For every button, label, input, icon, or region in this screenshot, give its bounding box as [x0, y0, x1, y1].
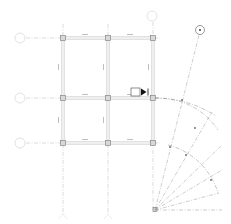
- radial-node-3: [210, 179, 212, 181]
- radial-node-5: [194, 127, 196, 129]
- beam-label-col1-lower: [58, 117, 59, 123]
- canvas-background: [0, 0, 231, 224]
- section-marker-box: [131, 88, 140, 96]
- beam-col1-lower[interactable]: [62, 100, 64, 141]
- beam-col2-lower[interactable]: [107, 100, 109, 141]
- beam-label-bottom-right: [127, 139, 133, 140]
- beam-label-mid-left: [82, 94, 88, 95]
- column-a2[interactable]: [106, 36, 111, 41]
- radial-node-2: [185, 154, 187, 156]
- beam-label-top-right: [127, 34, 133, 35]
- grid-bubble-row-2[interactable]: [15, 93, 25, 103]
- beam-mid-left[interactable]: [65, 97, 106, 99]
- column-b2[interactable]: [106, 96, 111, 101]
- beam-label-col3-upper: [148, 64, 149, 70]
- column-a1[interactable]: [61, 36, 66, 41]
- grid-bubble-rotated-dot: [199, 29, 201, 31]
- beam-label-col2-upper: [103, 64, 104, 70]
- column-c1[interactable]: [61, 141, 66, 146]
- beam-col2-upper[interactable]: [107, 40, 109, 96]
- beam-label-top-left: [82, 34, 88, 35]
- column-c2[interactable]: [106, 141, 111, 146]
- column-a3[interactable]: [151, 36, 156, 41]
- radial-node-1: [169, 146, 171, 148]
- column-c3[interactable]: [151, 141, 156, 146]
- beam-label-bottom-left: [82, 139, 88, 140]
- beam-label-col1-upper: [58, 64, 59, 70]
- beam-bottom-right[interactable]: [110, 142, 151, 144]
- beam-col3-upper[interactable]: [152, 40, 154, 96]
- grid-bubble-col-3[interactable]: [147, 11, 157, 21]
- radial-node-4: [181, 99, 183, 101]
- grid-bubble-row-1[interactable]: [15, 33, 25, 43]
- column-b1[interactable]: [61, 96, 66, 101]
- beam-mid-right[interactable]: [110, 97, 151, 99]
- beam-label-col2-lower: [103, 117, 104, 123]
- beam-top-right[interactable]: [110, 37, 151, 39]
- beam-col3-lower[interactable]: [152, 100, 154, 141]
- beam-col1-upper[interactable]: [62, 40, 64, 96]
- beam-bottom-left[interactable]: [65, 142, 106, 144]
- drawing-canvas[interactable]: [0, 0, 231, 224]
- grid-bubble-row-3[interactable]: [15, 138, 25, 148]
- beam-top-left[interactable]: [65, 37, 106, 39]
- column-b3[interactable]: [151, 96, 156, 101]
